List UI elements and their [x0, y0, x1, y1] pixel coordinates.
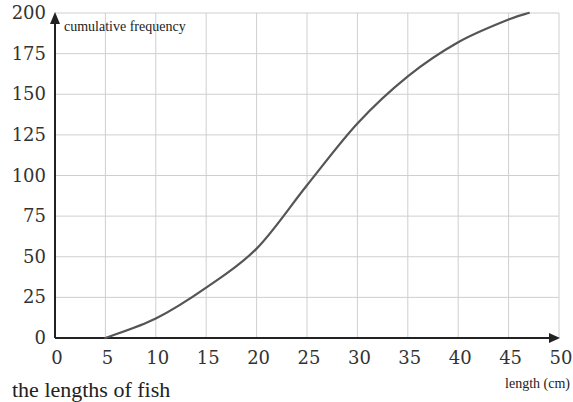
y-tick-label: 100 — [12, 165, 46, 186]
x-tick-label: 30 — [348, 347, 371, 368]
y-axis-arrow-icon — [50, 12, 60, 24]
x-tick-label: 35 — [398, 347, 421, 368]
x-tick-label: 5 — [102, 347, 113, 368]
x-tick-label: 10 — [146, 347, 169, 368]
x-tick-label: 0 — [51, 347, 62, 368]
y-tick-label: 200 — [12, 2, 46, 23]
y-tick-label: 125 — [12, 124, 46, 145]
y-tick-label: 75 — [23, 205, 46, 226]
x-axis-label: length (cm) — [505, 376, 570, 392]
x-tick-labels: 05101520253035404550 — [51, 347, 572, 368]
x-tick-label: 45 — [499, 347, 522, 368]
y-tick-labels: 0255075100125150175200 — [12, 2, 46, 348]
y-tick-label: 175 — [12, 43, 46, 64]
x-tick-label: 50 — [550, 347, 573, 368]
x-axis-arrow-icon — [549, 333, 560, 343]
y-tick-label: 150 — [12, 83, 46, 104]
x-tick-label: 15 — [197, 347, 220, 368]
y-tick-label: 50 — [23, 246, 46, 267]
axes — [50, 12, 560, 343]
x-tick-label: 20 — [247, 347, 270, 368]
grid-lines — [55, 13, 559, 338]
x-tick-label: 40 — [449, 347, 472, 368]
y-axis-label: cumulative frequency — [64, 19, 186, 34]
caption-text: the lengths of fish — [12, 379, 170, 401]
y-tick-label: 25 — [23, 286, 46, 307]
y-tick-label: 0 — [35, 327, 46, 348]
x-tick-label: 25 — [298, 347, 321, 368]
